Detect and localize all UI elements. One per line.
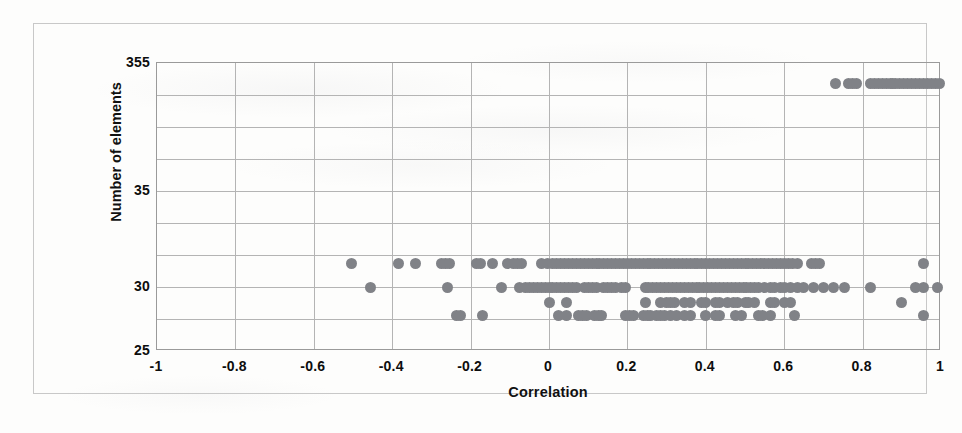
data-point bbox=[455, 310, 466, 321]
data-point bbox=[516, 258, 527, 269]
x-tick-label: 0.4 bbox=[675, 358, 735, 374]
gridline-vertical bbox=[314, 63, 315, 349]
data-point bbox=[934, 78, 945, 89]
gridline-vertical bbox=[392, 63, 393, 349]
data-point bbox=[475, 258, 486, 269]
data-point bbox=[865, 282, 876, 293]
data-point bbox=[410, 258, 421, 269]
gridline-horizontal bbox=[157, 95, 939, 96]
gridline-horizontal bbox=[157, 223, 939, 224]
y-tick-label: 35 bbox=[90, 182, 150, 198]
y-tick-label: 355 bbox=[90, 54, 150, 70]
gridline-horizontal bbox=[157, 255, 939, 256]
data-point bbox=[444, 258, 455, 269]
data-point bbox=[785, 297, 796, 308]
gridline-horizontal bbox=[157, 127, 939, 128]
data-point bbox=[442, 282, 453, 293]
x-axis-title: Correlation bbox=[156, 384, 940, 400]
x-tick-label: -1 bbox=[126, 358, 186, 374]
data-point bbox=[477, 310, 488, 321]
x-tick-label: -0.2 bbox=[440, 358, 500, 374]
data-point bbox=[896, 297, 907, 308]
data-point bbox=[685, 297, 696, 308]
gridline-horizontal bbox=[157, 159, 939, 160]
data-point bbox=[561, 297, 572, 308]
x-tick-label: 0.2 bbox=[596, 358, 656, 374]
x-tick-label: 1 bbox=[910, 358, 962, 374]
data-point bbox=[544, 297, 555, 308]
data-point bbox=[932, 282, 943, 293]
data-point bbox=[685, 310, 696, 321]
scatter-chart: Number of elements 355353025 -1-0.8-0.6-… bbox=[34, 24, 926, 393]
data-point bbox=[561, 310, 572, 321]
data-point bbox=[814, 258, 825, 269]
data-point bbox=[830, 78, 841, 89]
data-point bbox=[839, 282, 850, 293]
x-axis-tick-labels: -1-0.8-0.6-0.4-0.200.20.40.60.81 bbox=[156, 358, 940, 380]
gridline-horizontal bbox=[157, 319, 939, 320]
gridline-vertical bbox=[471, 63, 472, 349]
y-axis-tick-labels: 355353025 bbox=[86, 24, 150, 393]
y-tick-label: 30 bbox=[90, 278, 150, 294]
x-tick-label: -0.4 bbox=[361, 358, 421, 374]
x-tick-label: -0.6 bbox=[283, 358, 343, 374]
data-point bbox=[851, 78, 862, 89]
data-point bbox=[640, 297, 651, 308]
x-tick-label: 0.6 bbox=[753, 358, 813, 374]
x-tick-label: 0.8 bbox=[832, 358, 892, 374]
data-point bbox=[736, 310, 747, 321]
data-point bbox=[749, 297, 760, 308]
data-point bbox=[918, 258, 929, 269]
data-point bbox=[487, 258, 498, 269]
data-point bbox=[714, 310, 725, 321]
data-point bbox=[918, 310, 929, 321]
gridline-vertical bbox=[627, 63, 628, 349]
data-point bbox=[792, 258, 803, 269]
data-point bbox=[596, 310, 607, 321]
gridline-vertical bbox=[863, 63, 864, 349]
y-tick-label: 25 bbox=[90, 342, 150, 358]
x-tick-label: -0.8 bbox=[204, 358, 264, 374]
plot-area bbox=[156, 62, 940, 350]
data-point bbox=[620, 282, 631, 293]
data-point bbox=[828, 282, 839, 293]
data-point bbox=[496, 282, 507, 293]
data-point bbox=[365, 282, 376, 293]
data-point bbox=[393, 258, 404, 269]
data-point bbox=[765, 310, 776, 321]
data-point bbox=[918, 282, 929, 293]
data-point bbox=[789, 310, 800, 321]
figure-frame: Number of elements 355353025 -1-0.8-0.6-… bbox=[33, 23, 927, 394]
x-tick-label: 0 bbox=[518, 358, 578, 374]
data-point bbox=[346, 258, 357, 269]
gridline-vertical bbox=[235, 63, 236, 349]
gridline-horizontal bbox=[157, 191, 939, 192]
